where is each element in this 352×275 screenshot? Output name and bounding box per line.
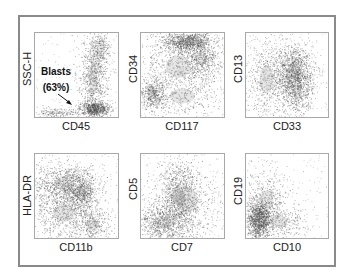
xlabel-cd45: CD45 [34,120,118,132]
xlabel-cd7: CD7 [140,241,224,253]
plot-cd117-cd34 [140,32,225,118]
blasts-label: Blasts [38,64,74,80]
ylabel-hla-dr: HLA-DR [21,175,33,216]
ylabel-cd19: CD19 [232,177,244,205]
plot-cd11b-hla-dr [34,153,119,239]
ylabel-cd5: CD5 [127,178,139,200]
arrow-icon [55,92,75,108]
plot-cd33-cd13 [245,32,329,118]
ylabel-ssc-h: SSC-H [21,52,33,86]
plot-cd10-cd19 [245,153,329,239]
xlabel-cd11b: CD11b [34,241,118,253]
ylabel-cd13: CD13 [232,55,244,83]
ylabel-cd34: CD34 [127,55,139,83]
plot-cd7-cd5 [140,153,225,239]
xlabel-cd33: CD33 [245,120,329,132]
xlabel-cd117: CD117 [140,120,224,132]
xlabel-cd10: CD10 [245,241,329,253]
